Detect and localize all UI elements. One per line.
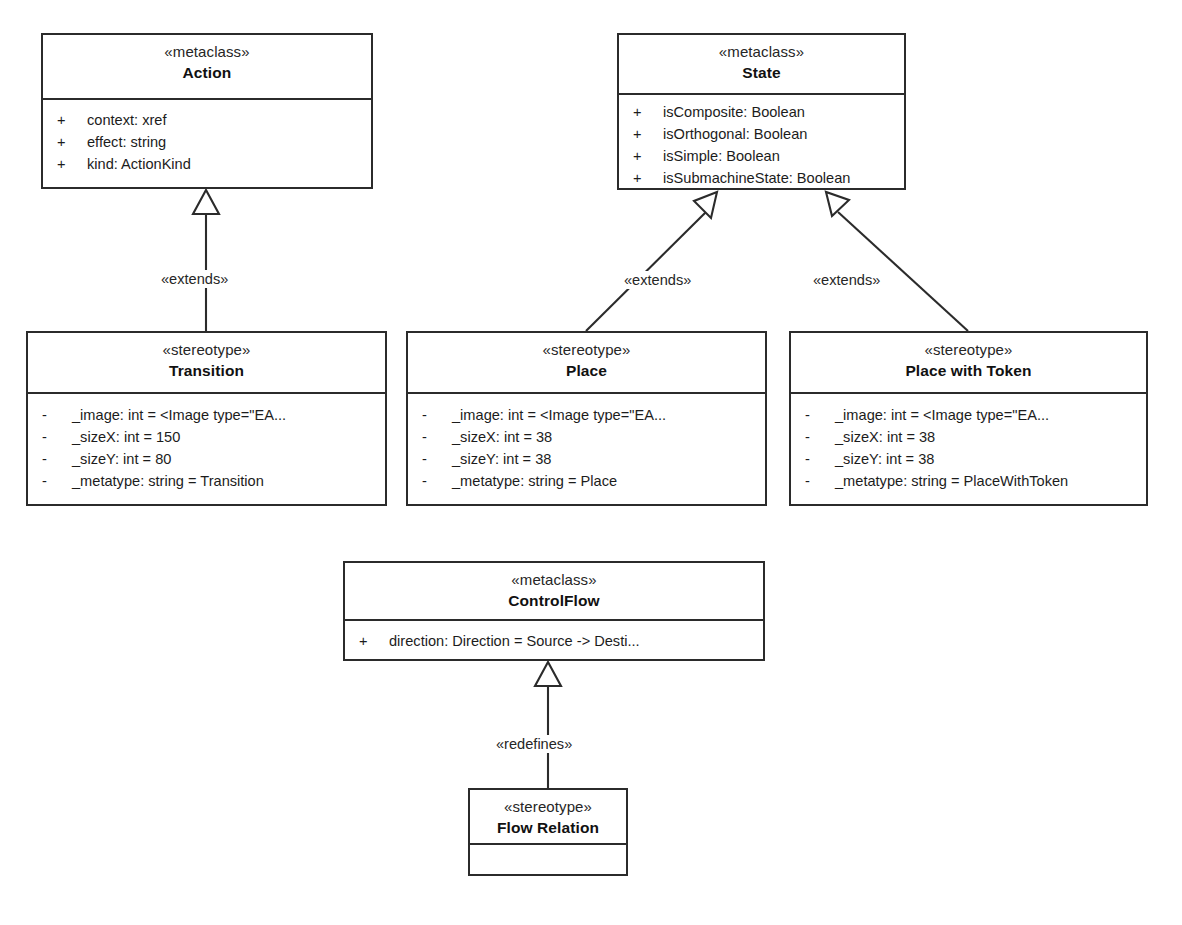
uml-class-flow-relation[interactable]: «stereotype» Flow Relation: [468, 788, 628, 876]
attribute-row: -_sizeX: int = 38: [791, 426, 1146, 448]
attribute-text: isSimple: Boolean: [663, 148, 780, 164]
generalization-flow-relation-to-control-flow: [535, 662, 561, 788]
class-header-place: «stereotype» Place: [408, 333, 765, 394]
attribute-row: -_image: int = <Image type="EA...: [791, 404, 1146, 426]
visibility-marker: -: [422, 470, 452, 492]
visibility-marker: -: [42, 448, 72, 470]
generalization-place-with-token-to-state: [826, 192, 968, 331]
attribute-row: +isComposite: Boolean: [619, 101, 904, 123]
class-name-control-flow: ControlFlow: [345, 590, 763, 611]
uml-class-state[interactable]: «metaclass» State +isComposite: Boolean …: [617, 33, 906, 190]
attribute-text: effect: string: [87, 134, 166, 150]
attribute-text: _metatype: string = Transition: [72, 473, 264, 489]
visibility-marker: -: [422, 404, 452, 426]
attribute-row: -_sizeY: int = 80: [28, 448, 385, 470]
generalization-transition-to-action: [193, 190, 219, 331]
uml-class-action[interactable]: «metaclass» Action +context: xref +effec…: [41, 33, 373, 189]
class-header-transition: «stereotype» Transition: [28, 333, 385, 394]
visibility-marker: +: [633, 145, 663, 167]
uml-class-control-flow[interactable]: «metaclass» ControlFlow +direction: Dire…: [343, 561, 765, 661]
attribute-text: kind: ActionKind: [87, 156, 191, 172]
class-stereotype-state: «metaclass»: [619, 42, 904, 62]
attribute-row: -_sizeX: int = 150: [28, 426, 385, 448]
visibility-marker: -: [805, 448, 835, 470]
attribute-row: -_sizeY: int = 38: [791, 448, 1146, 470]
attribute-row: +effect: string: [43, 131, 371, 153]
class-attributes-state: +isComposite: Boolean +isOrthogonal: Boo…: [619, 95, 904, 198]
attribute-text: _image: int = <Image type="EA...: [452, 407, 666, 423]
attribute-text: _sizeY: int = 80: [72, 451, 171, 467]
attribute-row: -_metatype: string = Transition: [28, 470, 385, 492]
class-name-state: State: [619, 62, 904, 83]
class-name-action: Action: [43, 62, 371, 83]
visibility-marker: +: [633, 101, 663, 123]
attribute-row: -_sizeY: int = 38: [408, 448, 765, 470]
attribute-row: -_metatype: string = Place: [408, 470, 765, 492]
class-stereotype-flow-relation: «stereotype»: [470, 797, 626, 817]
visibility-marker: +: [57, 109, 87, 131]
class-name-place-with-token: Place with Token: [791, 360, 1146, 381]
attribute-text: _sizeX: int = 38: [452, 429, 552, 445]
visibility-marker: -: [42, 404, 72, 426]
visibility-marker: -: [805, 470, 835, 492]
class-stereotype-control-flow: «metaclass»: [345, 570, 763, 590]
edge-label-place-with-token-extends-state: «extends»: [810, 271, 883, 289]
attribute-row: -_image: int = <Image type="EA...: [28, 404, 385, 426]
visibility-marker: -: [42, 470, 72, 492]
attribute-text: _sizeY: int = 38: [835, 451, 934, 467]
class-stereotype-action: «metaclass»: [43, 42, 371, 62]
class-attributes-control-flow: +direction: Direction = Source -> Desti.…: [345, 621, 763, 661]
class-attributes-transition: -_image: int = <Image type="EA... -_size…: [28, 394, 385, 501]
attribute-row: -_image: int = <Image type="EA...: [408, 404, 765, 426]
class-header-place-with-token: «stereotype» Place with Token: [791, 333, 1146, 394]
uml-diagram-canvas: Action : vertical generalization --> Sta…: [0, 0, 1182, 925]
uml-class-place-with-token[interactable]: «stereotype» Place with Token -_image: i…: [789, 331, 1148, 506]
attribute-text: isComposite: Boolean: [663, 104, 805, 120]
attribute-text: _sizeX: int = 150: [72, 429, 180, 445]
visibility-marker: +: [633, 123, 663, 145]
visibility-marker: +: [57, 153, 87, 175]
attribute-text: _sizeX: int = 38: [835, 429, 935, 445]
class-header-action: «metaclass» Action: [43, 35, 371, 100]
attribute-text: _metatype: string = Place: [452, 473, 617, 489]
attribute-text: _image: int = <Image type="EA...: [835, 407, 1049, 423]
attribute-text: _sizeY: int = 38: [452, 451, 551, 467]
class-stereotype-place-with-token: «stereotype»: [791, 340, 1146, 360]
attribute-text: isSubmachineState: Boolean: [663, 170, 850, 186]
attribute-text: direction: Direction = Source -> Desti..…: [389, 633, 640, 649]
uml-class-transition[interactable]: «stereotype» Transition -_image: int = <…: [26, 331, 387, 506]
attribute-row: +context: xref: [43, 109, 371, 131]
class-stereotype-transition: «stereotype»: [28, 340, 385, 360]
visibility-marker: -: [422, 426, 452, 448]
visibility-marker: +: [359, 630, 389, 652]
uml-class-place[interactable]: «stereotype» Place -_image: int = <Image…: [406, 331, 767, 506]
attribute-text: context: xref: [87, 112, 167, 128]
edge-label-flow-relation-redefines-control-flow: «redefines»: [493, 735, 575, 753]
visibility-marker: -: [805, 404, 835, 426]
attribute-text: _metatype: string = PlaceWithToken: [835, 473, 1068, 489]
attribute-text: _image: int = <Image type="EA...: [72, 407, 286, 423]
visibility-marker: -: [42, 426, 72, 448]
visibility-marker: +: [633, 167, 663, 189]
class-attributes-action: +context: xref +effect: string +kind: Ac…: [43, 100, 371, 184]
edge-label-transition-extends-action: «extends»: [158, 270, 231, 288]
visibility-marker: -: [422, 448, 452, 470]
class-name-flow-relation: Flow Relation: [470, 817, 626, 838]
attribute-row: +direction: Direction = Source -> Desti.…: [345, 630, 763, 652]
attribute-row: -_metatype: string = PlaceWithToken: [791, 470, 1146, 492]
attribute-text: isOrthogonal: Boolean: [663, 126, 807, 142]
class-name-transition: Transition: [28, 360, 385, 381]
attribute-row: +isOrthogonal: Boolean: [619, 123, 904, 145]
attribute-row: +isSubmachineState: Boolean: [619, 167, 904, 189]
class-attributes-place-with-token: -_image: int = <Image type="EA... -_size…: [791, 394, 1146, 501]
visibility-marker: +: [57, 131, 87, 153]
class-header-flow-relation: «stereotype» Flow Relation: [470, 790, 626, 845]
class-header-state: «metaclass» State: [619, 35, 904, 95]
attribute-row: -_sizeX: int = 38: [408, 426, 765, 448]
class-attributes-place: -_image: int = <Image type="EA... -_size…: [408, 394, 765, 501]
attribute-row: +kind: ActionKind: [43, 153, 371, 175]
visibility-marker: -: [805, 426, 835, 448]
edge-label-place-extends-state: «extends»: [621, 271, 694, 289]
attribute-row: +isSimple: Boolean: [619, 145, 904, 167]
class-name-place: Place: [408, 360, 765, 381]
